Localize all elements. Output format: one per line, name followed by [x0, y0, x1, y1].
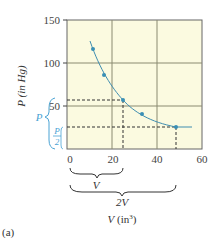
- chart-figure: 150 100 50 0 20 40 60 P (in Hg) P P 2 V …: [0, 0, 216, 238]
- brace-V-label: V: [93, 179, 101, 191]
- brace-2V-label: 2V: [116, 196, 130, 208]
- y-ticks: [63, 20, 67, 106]
- y-axis-label: P (in Hg): [15, 65, 28, 108]
- y-tick-50: 50: [49, 100, 61, 112]
- brace-P-label: P: [35, 111, 43, 123]
- y-tick-100: 100: [44, 57, 61, 69]
- x-tick-40: 40: [152, 153, 164, 165]
- plot-area: [67, 20, 202, 149]
- x-axis-label: V (in3): [108, 213, 137, 226]
- panel-label: (a): [2, 226, 15, 238]
- x-tick-60: 60: [197, 153, 209, 165]
- brace-half-numerator: P: [53, 126, 60, 136]
- y-tick-150: 150: [44, 14, 61, 26]
- brace-half: [61, 127, 63, 149]
- brace-2V: [70, 185, 176, 196]
- x-tick-0: 0: [67, 153, 73, 165]
- brace-V: [70, 168, 123, 178]
- brace-half-denominator: 2: [55, 137, 60, 147]
- x-tick-20: 20: [108, 153, 120, 165]
